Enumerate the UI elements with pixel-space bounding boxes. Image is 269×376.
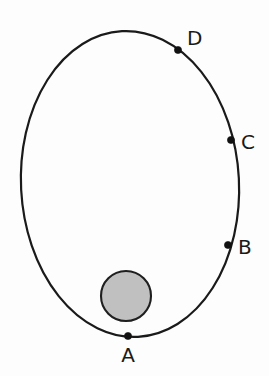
orbit-label-d: D: [187, 26, 202, 50]
orbit-diagram-figure: ABCD: [0, 0, 269, 376]
orbit-label-a: A: [121, 343, 135, 367]
orbit-marker-c: [227, 136, 234, 143]
orbit-marker-b: [224, 241, 231, 248]
orbit-label-c: C: [241, 130, 255, 154]
orbit-label-b: B: [238, 235, 252, 259]
central-body-circle: [101, 271, 151, 321]
orbit-diagram-canvas: ABCD: [0, 0, 269, 376]
orbit-marker-d: [174, 46, 181, 53]
orbit-marker-a: [124, 332, 131, 339]
